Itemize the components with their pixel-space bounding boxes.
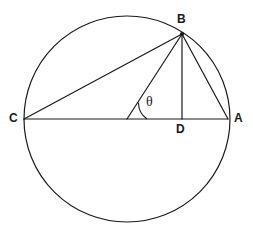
geometry-canvas [0, 0, 253, 232]
geometry-figure: A B C D θ [0, 0, 253, 232]
segment-radius-OB [127, 34, 182, 119]
vertex-label-c: C [9, 112, 18, 124]
vertex-label-b: B [177, 13, 186, 25]
vertex-label-a: A [234, 112, 243, 124]
segment-chord-CB [24, 34, 182, 119]
angle-label-theta: θ [146, 95, 153, 109]
vertex-label-d: D [176, 123, 185, 135]
vertex-point-B [180, 32, 184, 36]
